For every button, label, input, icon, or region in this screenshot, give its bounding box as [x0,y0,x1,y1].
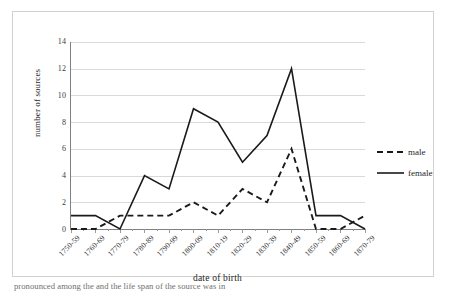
y-tick-label: 14 [58,38,66,46]
series-line-male [71,149,365,229]
legend-swatch-male [377,147,404,157]
y-axis-tick-labels: 02468101214 [47,42,66,230]
caption-strip: pronounced among the and the life span o… [0,283,449,301]
y-axis-title: number of sources [32,48,42,158]
legend-swatch-female [377,168,404,178]
figure-container: number of sources 02468101214 1750-59176… [0,0,449,301]
plot-area [70,42,365,230]
chart-legend: malefemale [377,141,443,183]
y-tick-label: 2 [62,199,66,207]
legend-item-male[interactable]: male [377,141,443,162]
x-axis-title: date of birth [70,273,365,283]
y-tick-label: 4 [62,172,66,180]
y-tick-label: 6 [62,145,66,153]
series-lines [71,42,365,229]
series-line-female [71,69,365,229]
caption-text: pronounced among the and the life span o… [14,283,444,291]
legend-label: male [408,147,426,157]
y-tick-label: 10 [58,92,66,100]
legend-label: female [408,168,432,178]
chart-frame: number of sources 02468101214 1750-59176… [12,11,434,277]
x-axis-tick-labels: 1750-591760-691770-791780-891790-991800-… [70,231,365,273]
y-tick-label: 12 [58,65,66,73]
y-tick-label: 8 [62,119,66,127]
legend-item-female[interactable]: female [377,162,443,183]
y-tick-label: 0 [62,226,66,234]
